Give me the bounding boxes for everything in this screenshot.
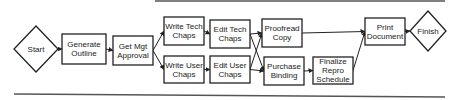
node-start: Start <box>14 26 58 72</box>
node-editTech: Edit TechChaps <box>210 20 250 48</box>
node-label: Write Tech <box>165 22 203 31</box>
node-label: Document <box>367 32 404 41</box>
edge-repro-to-print <box>353 32 365 71</box>
node-label: Chaps <box>172 31 195 40</box>
node-editUser: Edit UserChaps <box>210 56 250 83</box>
node-approval: Get MgtApproval <box>113 36 153 65</box>
nodes-layer: StartGenerateOutlineGet MgtApprovalWrite… <box>14 11 446 85</box>
flowchart-diagram: StartGenerateOutlineGet MgtApprovalWrite… <box>0 0 458 100</box>
bottom-rule <box>14 94 445 97</box>
edge-proofread-to-print <box>302 32 365 34</box>
node-finish: Finish <box>410 11 446 51</box>
node-label: Proofread <box>264 24 299 33</box>
node-writeUser: Write UserChaps <box>164 56 204 83</box>
edge-editTech-to-proofread <box>250 33 262 34</box>
node-label: Finish <box>417 27 438 36</box>
node-label: Edit Tech <box>214 25 247 34</box>
node-label: Write User <box>165 61 203 70</box>
node-label: Edit User <box>214 61 247 70</box>
node-label: Chaps <box>172 70 195 79</box>
node-label: Start <box>28 45 46 54</box>
node-label: Repro <box>322 66 344 75</box>
edge-approval-to-writeTech <box>153 31 164 51</box>
node-writeTech: Write TechChaps <box>164 17 204 45</box>
node-label: Purchase <box>267 62 301 71</box>
node-print: PrintDocument <box>365 18 405 45</box>
node-label: Chaps <box>218 34 241 43</box>
node-label: Finalize <box>319 57 347 66</box>
node-binding: PurchaseBinding <box>264 57 304 85</box>
node-label: Outline <box>71 49 97 58</box>
node-label: Chaps <box>218 70 241 79</box>
edge-editUser-to-binding <box>250 70 264 72</box>
node-proofread: ProofreadCopy <box>262 19 302 47</box>
node-label: Binding <box>271 71 298 80</box>
node-outline: GenerateOutline <box>62 34 106 64</box>
node-label: Generate <box>67 40 101 49</box>
node-repro: FinalizeReproSchedule <box>313 57 353 84</box>
node-label: Approval <box>117 51 149 60</box>
edge-binding-to-repro <box>304 71 313 72</box>
edge-approval-to-writeUser <box>153 51 164 70</box>
edge-outline-to-approval <box>106 49 113 51</box>
node-label: Copy <box>273 33 292 42</box>
node-label: Print <box>377 23 394 32</box>
node-label: Schedule <box>316 75 350 84</box>
node-label: Get Mgt <box>119 42 148 51</box>
edge-writeTech-to-editTech <box>204 31 210 34</box>
